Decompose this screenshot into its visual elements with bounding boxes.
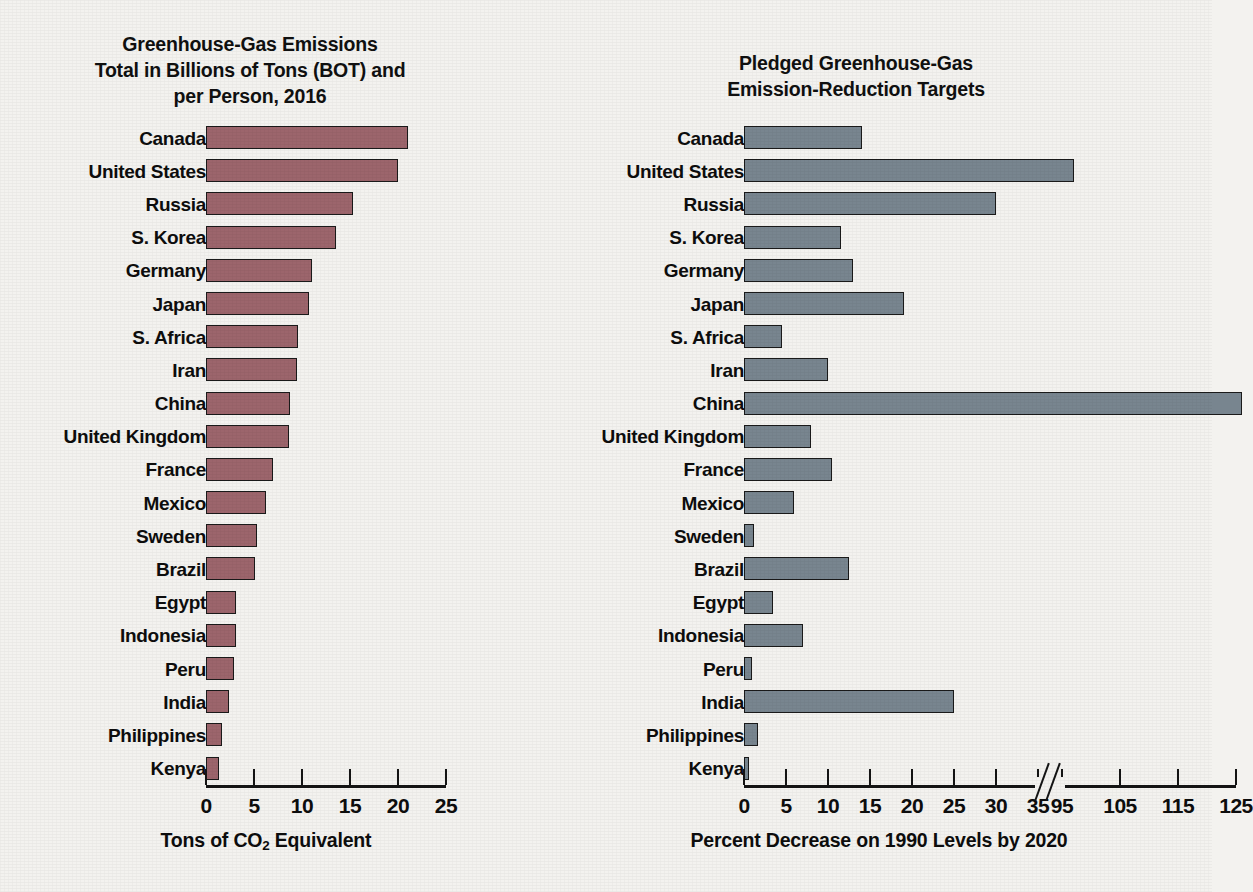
category-label: Canada — [139, 128, 206, 150]
bar-row: United Kingdom — [0, 421, 500, 454]
category-label: India — [163, 692, 206, 714]
bar — [744, 557, 849, 580]
bar-row: United States — [0, 155, 500, 188]
chart-panel-emissions: Greenhouse-Gas Emissions Total in Billio… — [0, 0, 500, 892]
x-tick — [995, 769, 997, 785]
x-tick — [953, 769, 955, 785]
x-tick — [445, 769, 447, 785]
bar-row: Japan — [500, 288, 1212, 321]
bar — [206, 292, 309, 315]
bar-rows-pledges: CanadaUnited StatesRussiaS. KoreaGermany… — [500, 122, 1212, 786]
bar — [206, 259, 312, 282]
bar — [206, 657, 234, 680]
bar-row: Russia — [500, 188, 1212, 221]
chart-title-line: per Person, 2016 — [0, 83, 500, 109]
plot-area-pledges: CanadaUnited StatesRussiaS. KoreaGermany… — [500, 122, 1212, 792]
category-label: United Kingdom — [601, 426, 744, 448]
bar-row: Germany — [0, 255, 500, 288]
bar — [744, 657, 752, 680]
x-tick-label: 115 — [1162, 794, 1194, 818]
chart-title-emissions: Greenhouse-Gas Emissions Total in Billio… — [0, 31, 500, 109]
bar — [744, 491, 794, 514]
category-label: S. Korea — [131, 227, 206, 249]
category-label: Japan — [691, 294, 744, 316]
bar-row: Egypt — [0, 587, 500, 620]
bar — [206, 557, 255, 580]
x-tick — [1119, 769, 1121, 785]
bar — [206, 425, 289, 448]
x-tick — [911, 769, 913, 785]
x-tick — [827, 769, 829, 785]
bar-row: Russia — [0, 188, 500, 221]
bar — [744, 192, 996, 215]
chart-title-pledges: Pledged Greenhouse-Gas Emission-Reductio… — [500, 50, 1212, 102]
bar — [744, 690, 954, 713]
x-tick-label: 125 — [1219, 794, 1253, 818]
x-tick-label: 5 — [780, 794, 791, 818]
x-axis-caption-post: Equivalent — [270, 829, 372, 851]
bar-row: India — [0, 686, 500, 719]
x-tick — [253, 769, 255, 785]
category-label: Kenya — [150, 758, 206, 780]
bar — [744, 458, 832, 481]
bar-row: Indonesia — [0, 620, 500, 653]
bar — [744, 524, 754, 547]
category-label: Peru — [703, 659, 744, 681]
x-tick-label: 15 — [859, 794, 881, 818]
x-tick — [1235, 769, 1237, 785]
bar — [206, 491, 266, 514]
category-label: Philippines — [108, 725, 206, 747]
x-tick-label: 15 — [339, 794, 361, 818]
chart-title-line: Greenhouse-Gas Emissions — [0, 31, 500, 57]
x-tick-label: 25 — [943, 794, 965, 818]
category-label: Iran — [710, 360, 744, 382]
bar-row: India — [500, 686, 1212, 719]
bar-row: Canada — [500, 122, 1212, 155]
category-label: Russia — [683, 194, 744, 216]
x-tick-label: 30 — [985, 794, 1007, 818]
bar-row: Peru — [0, 653, 500, 686]
bar-row: Iran — [500, 354, 1212, 387]
x-axis-caption-emissions: Tons of CO2 Equivalent — [0, 829, 500, 853]
x-axis-line — [744, 785, 1236, 788]
bar-row: S. Korea — [500, 222, 1212, 255]
category-label: United Kingdom — [63, 426, 206, 448]
x-axis-line — [206, 785, 446, 788]
x-tick-label: 10 — [291, 794, 313, 818]
bar-row: Kenya — [500, 753, 1212, 786]
bar-row: Philippines — [0, 719, 500, 752]
bar — [206, 392, 290, 415]
x-tick-label: 20 — [387, 794, 409, 818]
category-label: Indonesia — [120, 625, 206, 647]
bar-row: Philippines — [500, 719, 1212, 752]
bar — [206, 723, 222, 746]
bar — [206, 690, 229, 713]
category-label: Mexico — [143, 493, 206, 515]
category-label: Japan — [153, 294, 206, 316]
x-tick-label: 0 — [200, 794, 211, 818]
x-tick-label: 20 — [901, 794, 923, 818]
bar — [206, 192, 353, 215]
category-label: Germany — [664, 260, 744, 282]
category-label: S. Korea — [669, 227, 744, 249]
x-tick — [785, 769, 787, 785]
bar — [206, 325, 298, 348]
category-label: France — [683, 459, 744, 481]
bar-row: Sweden — [0, 520, 500, 553]
bar — [744, 292, 904, 315]
category-label: Philippines — [646, 725, 744, 747]
bar — [744, 624, 803, 647]
category-label: China — [693, 393, 744, 415]
bar — [744, 159, 1074, 182]
category-label: Egypt — [155, 592, 206, 614]
bar-row: Iran — [0, 354, 500, 387]
category-label: Canada — [677, 128, 744, 150]
bar-row: Egypt — [500, 587, 1212, 620]
x-tick-label: 5 — [248, 794, 259, 818]
bar-row: Germany — [500, 255, 1212, 288]
bar-row: China — [500, 388, 1212, 421]
bar-row: Sweden — [500, 520, 1212, 553]
category-label: France — [145, 459, 206, 481]
bar — [206, 591, 236, 614]
